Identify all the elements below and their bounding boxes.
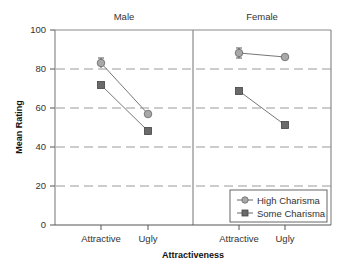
female-high-charisma-series <box>235 48 289 61</box>
x-tick-ugly-male: Ugly <box>138 233 157 244</box>
panel-title-male: Male <box>114 11 135 22</box>
y-axis <box>50 30 55 225</box>
data-point <box>144 110 152 118</box>
x-tick-attractive-male: Attractive <box>81 233 121 244</box>
data-point <box>282 122 289 129</box>
y-tick-60: 60 <box>35 102 46 113</box>
legend: High Charisma Some Charisma <box>230 190 327 222</box>
data-point <box>145 128 152 135</box>
x-tick-ugly-female: Ugly <box>275 233 294 244</box>
y-axis-title: Mean Rating <box>14 100 24 154</box>
y-tick-100: 100 <box>30 24 46 35</box>
y-tick-80: 80 <box>35 63 46 74</box>
data-point <box>97 59 105 67</box>
panel-title-female: Female <box>246 11 278 22</box>
x-tick-attractive-female: Attractive <box>219 233 259 244</box>
data-point <box>281 53 289 61</box>
legend-circle-icon <box>242 197 248 203</box>
legend-square-icon <box>242 210 248 216</box>
legend-high-charisma: High Charisma <box>257 195 321 206</box>
data-point <box>235 49 243 57</box>
y-tick-40: 40 <box>35 141 46 152</box>
legend-some-charisma: Some Charisma <box>257 208 326 219</box>
male-high-charisma-series <box>97 58 152 118</box>
x-axis <box>101 225 285 230</box>
chart: Male Female 100 80 60 40 20 0 Mean Ratin… <box>0 0 348 273</box>
x-axis-title: Attractiveness <box>162 250 224 260</box>
y-tick-0: 0 <box>41 219 46 230</box>
y-tick-20: 20 <box>35 180 46 191</box>
data-point <box>98 82 105 89</box>
data-point <box>236 88 243 95</box>
